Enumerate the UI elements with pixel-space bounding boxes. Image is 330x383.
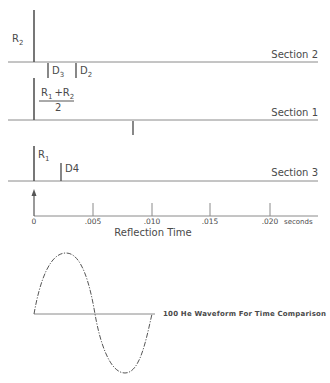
r1-label: R1 xyxy=(38,149,49,163)
fraction-denominator: 2 xyxy=(55,102,61,113)
section-2-label: Section 2 xyxy=(271,49,318,60)
axis-unit: seconds xyxy=(284,218,313,226)
tick-label-010: .010 xyxy=(144,217,161,226)
start-arrow-icon xyxy=(32,189,37,196)
section-1-trace: R1+R2 2 Section 1 xyxy=(8,78,318,135)
section-3-label: Section 3 xyxy=(271,167,318,178)
tick-label-015: .015 xyxy=(202,217,219,226)
comparison-waveform: 100 He Waveform For Time Comparison xyxy=(34,253,326,373)
tick-label-020: .020 xyxy=(262,217,279,226)
tick-label-0: 0 xyxy=(32,217,37,226)
axis-title: Reflection Time xyxy=(114,227,191,238)
reflection-time-diagram: R2 D3 D2 Section 2 R1+R2 2 Section 1 R1 … xyxy=(0,0,330,383)
d4-label: D4 xyxy=(65,163,79,174)
tick-label-005: .005 xyxy=(85,217,102,226)
section-2-trace: R2 D3 D2 Section 2 xyxy=(8,10,318,79)
average-reflection-label: R1+R2 2 xyxy=(39,87,74,113)
r2-label: R2 xyxy=(12,33,23,47)
d3-label: D3 xyxy=(52,65,64,79)
section-3-trace: R1 D4 Section 3 xyxy=(8,146,318,181)
waveform-label: 100 He Waveform For Time Comparison xyxy=(163,310,326,318)
section-1-label: Section 1 xyxy=(271,107,318,118)
d2-label: D2 xyxy=(80,65,92,79)
sine-wave-curve xyxy=(34,253,152,373)
fraction-numerator: R1+R2 xyxy=(41,87,74,101)
reflection-time-axis: 0 .005 .010 .015 .020 seconds Reflection… xyxy=(32,189,319,238)
